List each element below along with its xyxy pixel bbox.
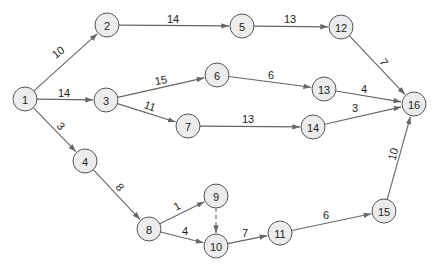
- activity-network-diagram: 10143141511813613147674310 1234567891011…: [0, 0, 437, 267]
- edge-7-to-14: [200, 126, 300, 127]
- node-label: 11: [274, 228, 285, 240]
- edge-weight-label: 11: [143, 98, 158, 113]
- edge-weight-label: 6: [323, 209, 329, 221]
- edge-weight-label: 4: [182, 225, 188, 237]
- node-9: 9: [204, 184, 228, 208]
- edge-weight-label: 8: [113, 181, 126, 193]
- nodes-layer: 12345678910111213141516: [13, 13, 426, 258]
- node-2: 2: [95, 13, 119, 37]
- edge-weight-label: 6: [268, 69, 274, 81]
- node-label: 12: [335, 22, 347, 34]
- node-label: 15: [378, 206, 390, 218]
- edge-5-to-12: [254, 26, 328, 27]
- node-label: 10: [210, 241, 222, 253]
- node-11: 11: [268, 221, 292, 245]
- edge-weight-label: 4: [361, 83, 367, 95]
- edge-weight-label: 13: [242, 113, 254, 125]
- node-label: 5: [239, 21, 245, 33]
- edge-1-to-3: [37, 99, 93, 100]
- edge-weight-label: 7: [377, 56, 390, 68]
- node-14: 14: [301, 115, 325, 139]
- node-label: 2: [104, 20, 110, 32]
- edge-12-to-16: [349, 36, 405, 95]
- node-label: 6: [214, 70, 220, 82]
- node-label: 16: [408, 99, 420, 111]
- edge-weight-label: 7: [242, 227, 248, 239]
- node-label: 9: [213, 191, 219, 203]
- edge-weight-label: 15: [154, 73, 168, 87]
- edge-2-to-5: [119, 25, 229, 26]
- edge-14-to-16: [325, 107, 402, 124]
- node-label: 8: [146, 224, 152, 236]
- edge-11-to-15: [292, 214, 372, 231]
- node-4: 4: [73, 149, 97, 173]
- edge-weight-label: 3: [54, 120, 67, 132]
- node-10: 10: [204, 234, 228, 258]
- node-13: 13: [312, 77, 336, 101]
- edge-1-to-2: [34, 34, 97, 91]
- edge-weight-label: 3: [352, 102, 358, 114]
- node-7: 7: [176, 114, 200, 138]
- edge-weight-label: 14: [58, 87, 70, 99]
- node-label: 7: [185, 121, 191, 133]
- node-5: 5: [230, 14, 254, 38]
- node-3: 3: [94, 88, 118, 112]
- edge-8-to-9: [160, 202, 205, 224]
- edge-1-to-4: [33, 108, 76, 152]
- node-15: 15: [372, 199, 396, 223]
- node-6: 6: [205, 63, 229, 87]
- node-16: 16: [402, 92, 426, 116]
- edge-weight-label: 10: [49, 44, 66, 61]
- edge-4-to-8: [93, 170, 140, 220]
- node-label: 4: [82, 156, 88, 168]
- edge-13-to-16: [336, 91, 401, 102]
- edges-layer: [33, 25, 410, 244]
- edge-weight-label: 14: [167, 13, 179, 25]
- node-label: 1: [22, 94, 28, 106]
- edge-weight-label: 13: [284, 13, 296, 25]
- node-label: 3: [103, 95, 109, 107]
- edge-weight-label: 1: [171, 199, 182, 212]
- node-8: 8: [137, 217, 161, 241]
- node-12: 12: [329, 15, 353, 39]
- node-label: 14: [307, 122, 319, 134]
- node-1: 1: [13, 87, 37, 111]
- node-label: 13: [318, 84, 330, 96]
